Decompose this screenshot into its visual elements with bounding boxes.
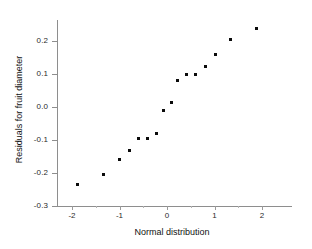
x-tick-minor-mark: [143, 206, 144, 208]
x-tick-mark: [262, 206, 263, 210]
x-tick-minor-mark: [238, 206, 239, 208]
data-point: [229, 38, 232, 41]
data-point: [255, 27, 258, 30]
x-axis-line: [57, 206, 292, 207]
qq-plot-figure: -0.3-0.2-0.10.00.10.2 -2-1012 Normal dis…: [0, 0, 312, 249]
x-tick-label: 1: [203, 211, 227, 220]
data-point: [155, 132, 158, 135]
data-point: [214, 53, 217, 56]
x-tick-mark: [215, 206, 216, 210]
x-tick-minor-mark: [191, 206, 192, 208]
data-point: [128, 149, 131, 152]
data-point: [118, 158, 121, 161]
x-tick-mark: [72, 206, 73, 210]
data-point: [194, 73, 197, 76]
data-point: [102, 173, 105, 176]
plot-area: [57, 20, 282, 206]
data-point: [137, 137, 140, 140]
data-point: [170, 101, 173, 104]
x-axis-title: Normal distribution: [0, 227, 312, 238]
y-tick-mark: [52, 206, 57, 207]
data-point: [162, 109, 165, 112]
x-tick-label: -2: [60, 211, 84, 220]
data-point: [176, 79, 179, 82]
data-point: [185, 73, 188, 76]
x-tick-label: 2: [250, 211, 274, 220]
data-point: [204, 65, 207, 68]
x-tick-mark: [120, 206, 121, 210]
data-point: [146, 137, 149, 140]
y-axis-title: Residuals for fruit diameter: [14, 15, 25, 205]
data-point: [76, 183, 79, 186]
x-tick-label: 0: [155, 211, 179, 220]
x-tick-minor-mark: [96, 206, 97, 208]
x-tick-mark: [167, 206, 168, 210]
x-tick-label: -1: [108, 211, 132, 220]
